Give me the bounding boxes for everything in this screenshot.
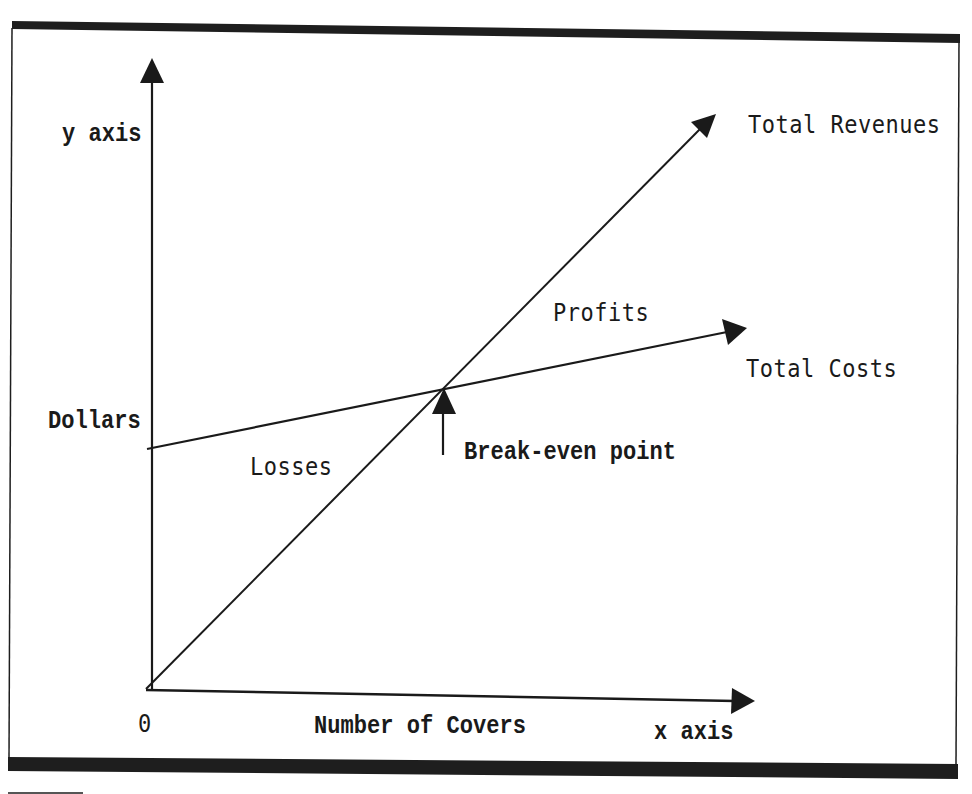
dollars-label: Dollars xyxy=(48,408,141,434)
total-revenues-label: Total Revenues xyxy=(748,113,940,137)
frame-left-edge xyxy=(9,28,12,760)
break-even-arrow xyxy=(432,388,456,455)
y-axis-label: y axis xyxy=(62,121,142,147)
costs-arrow-icon xyxy=(722,319,747,345)
frame-top-bar xyxy=(12,21,960,43)
total-costs-label: Total Costs xyxy=(746,357,897,381)
frame-right-edge xyxy=(956,40,959,766)
total-revenues-line xyxy=(146,114,716,689)
x-axis-label: x axis xyxy=(654,719,734,745)
losses-label: Losses xyxy=(250,455,332,479)
frame-bottom-bar xyxy=(8,757,958,779)
number-of-covers-label: Number of Covers xyxy=(314,713,526,739)
y-axis-arrow-icon xyxy=(140,58,164,83)
origin-label: 0 xyxy=(138,712,152,736)
x-axis-arrow-icon xyxy=(731,688,755,714)
y-axis xyxy=(140,58,164,690)
profits-label: Profits xyxy=(553,301,649,325)
break-even-point-label: Break-even point xyxy=(464,439,676,465)
